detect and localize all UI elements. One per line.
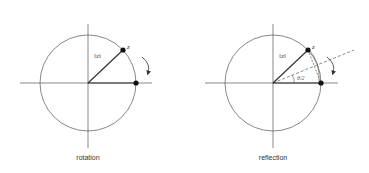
angle-arc [292,75,294,83]
caption-reflection: reflection [233,154,313,161]
figure: ‖z‖ z ‖z‖ z θ/2 [0,0,369,173]
point-rotated [133,80,138,85]
rotation-arrow-icon [142,57,149,73]
point-z [305,47,310,52]
norm-label: ‖z‖ [94,52,101,60]
z-label: z [126,43,130,51]
angle-label: θ/2 [297,75,305,81]
reflection-arc [310,51,319,81]
norm-label: ‖z‖ [279,52,286,60]
point-reflected [318,80,323,85]
reflection-diagram: ‖z‖ z θ/2 [205,24,354,148]
caption-rotation: rotation [48,154,128,161]
point-z [120,47,125,52]
rotation-diagram: ‖z‖ z [20,24,152,148]
z-label: z [311,43,315,51]
